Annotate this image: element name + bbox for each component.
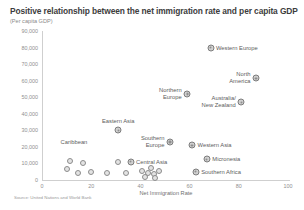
data-point (142, 174, 148, 180)
x-tick-label: 0 (41, 183, 44, 189)
y-tick-label: 50,000 (22, 94, 39, 100)
data-point (238, 99, 245, 106)
y-tick-label: 30,000 (22, 127, 39, 133)
x-tick-label: 100 (284, 183, 293, 189)
data-point (115, 127, 122, 134)
x-axis-line (42, 180, 290, 181)
x-tick-label: 80 (236, 183, 242, 189)
data-point (123, 170, 129, 176)
data-point (88, 169, 94, 175)
y-tick-label: 60,000 (22, 78, 39, 84)
point-label: Micronesia (212, 156, 240, 163)
data-point (75, 170, 81, 176)
data-point (203, 156, 210, 163)
data-point (152, 175, 158, 181)
point-label: Southern Europe (141, 135, 165, 148)
point-label: Southern Africa (201, 168, 241, 175)
data-point (253, 75, 260, 82)
data-point (192, 168, 199, 175)
y-tick-label: 90,000 (22, 28, 39, 34)
data-point (104, 170, 110, 176)
point-label: North America (229, 72, 250, 85)
chart-title: Positive relationship between the net im… (10, 6, 298, 16)
data-point (166, 138, 173, 145)
y-tick-label: 10,000 (22, 160, 39, 166)
y-tick-label: 20,000 (22, 144, 39, 150)
data-point (64, 166, 70, 172)
data-point (127, 158, 134, 165)
data-point (207, 44, 214, 51)
point-label: Northern Europe (159, 87, 182, 100)
y-tick-label: 70,000 (22, 61, 39, 67)
data-point (156, 168, 162, 174)
data-point (189, 142, 196, 149)
x-axis-title: Net Immigration Rate (140, 190, 193, 196)
y-axis-tick-labels: 010,00020,00030,00040,00050,00060,00070,… (0, 0, 38, 210)
point-label: Central Asia (136, 158, 167, 165)
point-label: Western Asia (198, 142, 232, 149)
x-tick-label: 60 (187, 183, 193, 189)
x-tick-label: 20 (88, 183, 94, 189)
source-note: Source: United Nations and World Bank (14, 195, 92, 200)
y-tick-label: 0 (35, 177, 38, 183)
data-point (115, 159, 121, 165)
data-point (80, 160, 86, 166)
x-tick-label: 40 (137, 183, 143, 189)
data-point (184, 90, 191, 97)
point-label: Caribbean (61, 139, 88, 146)
y-tick-label: 40,000 (22, 111, 39, 117)
y-tick-label: 80,000 (22, 45, 39, 51)
point-label: Western Europe (216, 44, 258, 51)
chart-container: Positive relationship between the net im… (0, 0, 304, 210)
data-point (67, 158, 73, 164)
point-label: Australia/ New Zealand (202, 96, 236, 109)
point-label: Eastern Asia (102, 118, 135, 125)
